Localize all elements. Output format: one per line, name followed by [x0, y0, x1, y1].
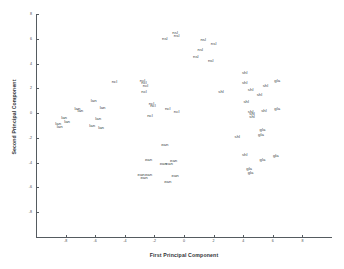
y-tick-mark: [36, 138, 39, 139]
data-point-label: gla: [248, 170, 254, 174]
x-tick-label: -6: [94, 239, 97, 243]
data-point-label: shl: [257, 92, 263, 96]
x-tick-mark: [154, 235, 155, 238]
data-point-label: ncl: [147, 113, 153, 117]
data-point-label: shl: [263, 84, 269, 88]
y-tick-mark: [36, 88, 39, 89]
y-axis-line: [36, 14, 37, 237]
x-tick-label: -2: [153, 239, 156, 243]
data-point-label: shl: [249, 115, 255, 119]
x-tick-label: 2: [213, 239, 215, 243]
y-tick-label: 4: [30, 62, 32, 66]
data-point-label: lan: [95, 117, 101, 121]
y-tick-label: 2: [30, 86, 32, 90]
y-tick-label: -8: [29, 210, 32, 214]
y-tick-label: 8: [30, 12, 32, 16]
data-point-label: ean: [164, 180, 171, 184]
y-tick-label: -2: [29, 136, 32, 140]
data-point-label: ncl: [165, 107, 171, 111]
data-point-label: lan: [91, 99, 97, 103]
y-axis-label: Second Principal Component: [11, 57, 17, 177]
data-point-label: nsl: [211, 42, 217, 46]
x-tick-label: -8: [64, 239, 67, 243]
data-point-label: shl: [261, 108, 267, 112]
x-tick-label: -4: [123, 239, 126, 243]
y-tick-label: 0: [30, 111, 32, 115]
x-tick-mark: [214, 235, 215, 238]
y-tick-mark: [36, 212, 39, 213]
data-point-label: ean: [172, 174, 179, 178]
x-tick-mark: [95, 235, 96, 238]
data-point-label: ean: [161, 143, 168, 147]
x-tick-mark: [125, 235, 126, 238]
data-point-label: ncl: [112, 80, 118, 84]
y-tick-label: -6: [29, 185, 32, 189]
x-tick-label: 0: [183, 239, 185, 243]
y-tick-mark: [36, 64, 39, 65]
data-point-label: shl: [242, 153, 248, 157]
y-tick-mark: [36, 113, 39, 114]
data-point-label: nsl: [200, 38, 206, 42]
data-point-label: shl: [235, 134, 241, 138]
y-tick-label: -4: [29, 161, 32, 165]
plot-area: -8-6-4-202468 -8-6-4-202468 nslnslnslnsl…: [36, 14, 332, 237]
data-point-label: ncl: [150, 104, 156, 108]
data-point-label: gla: [273, 154, 279, 158]
x-tick-label: 8: [301, 239, 303, 243]
data-point-label: gla: [260, 158, 266, 162]
data-point-label: nsl: [193, 55, 199, 59]
x-tick-mark: [243, 235, 244, 238]
x-tick-mark: [302, 235, 303, 238]
data-point-label: ean: [170, 159, 177, 163]
data-point-label: gla: [274, 79, 280, 83]
y-tick-mark: [36, 187, 39, 188]
data-point-label: lan: [57, 125, 63, 129]
data-point-label: shl: [248, 87, 254, 91]
x-tick-mark: [184, 235, 185, 238]
y-tick-mark: [36, 163, 39, 164]
x-tick-label: 6: [272, 239, 274, 243]
data-point-label: nsl: [174, 34, 180, 38]
data-point-label: ncl: [143, 84, 149, 88]
data-point-label: gla: [258, 133, 264, 137]
data-point-label: lan: [64, 120, 70, 124]
data-point-label: nsl: [162, 37, 168, 41]
data-point-label: nsl: [198, 48, 204, 52]
x-axis-label: First Principal Component: [36, 252, 332, 258]
data-point-label: ncl: [141, 90, 147, 94]
y-tick-mark: [36, 14, 39, 15]
y-tick-mark: [36, 39, 39, 40]
data-point-label: shl: [218, 90, 224, 94]
data-point-label: gla: [274, 107, 280, 111]
x-tick-mark: [273, 235, 274, 238]
data-point-label: shl: [242, 81, 248, 85]
data-point-label: lan: [89, 123, 95, 127]
x-tick-label: 4: [242, 239, 244, 243]
data-point-label: lan: [78, 108, 84, 112]
scatter-plot-figure: -8-6-4-202468 -8-6-4-202468 nslnslnslnsl…: [0, 0, 344, 269]
data-point-label: shl: [243, 100, 249, 104]
data-point-label: lan: [98, 126, 104, 130]
data-point-label: ean: [145, 158, 152, 162]
data-point-label: ncl: [174, 110, 180, 114]
data-point-label: nsl: [208, 59, 214, 63]
data-point-label: ean: [145, 173, 152, 177]
data-point-label: lan: [100, 106, 106, 110]
y-tick-label: 6: [30, 37, 32, 41]
x-tick-mark: [66, 235, 67, 238]
data-point-label: shl: [242, 71, 248, 75]
